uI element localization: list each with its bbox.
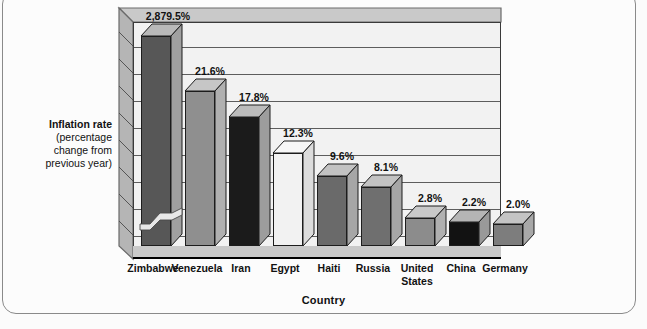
y-axis-title-line-1: Inflation rate — [10, 118, 112, 131]
bar-label-zimbabwe: 2,879.5% — [137, 10, 199, 22]
bar-front-russia — [361, 187, 391, 246]
bar-side-china — [479, 210, 492, 246]
bar-label-china: 2.2% — [451, 196, 497, 208]
y-axis-title-line-4: previous year) — [10, 157, 112, 170]
cat-label-united-states-line-2: States — [382, 275, 452, 288]
bar-side-russia — [391, 175, 404, 246]
bar-front-egypt — [273, 153, 303, 246]
bar-side-iran — [259, 105, 272, 246]
bar-label-egypt: 12.3% — [275, 127, 321, 139]
y-axis-title-line-3: change from — [10, 144, 112, 157]
bar-front-germany — [493, 224, 523, 246]
bar-label-haiti: 9.6% — [319, 150, 365, 162]
bar-side-united-states — [435, 206, 448, 246]
x-axis-title: Country — [0, 294, 647, 306]
bar-label-iran: 17.8% — [231, 91, 277, 103]
bar-front-venezuela — [185, 91, 215, 246]
bars-layer: 2,879.5% 21.6% — [133, 22, 501, 259]
bar-front-united-states — [405, 218, 435, 246]
cat-label-germany: Germany — [470, 262, 540, 275]
bar-label-russia: 8.1% — [363, 161, 409, 173]
bar-front-iran — [229, 117, 259, 246]
bar-front-china — [449, 222, 479, 246]
bar-side-venezuela — [215, 79, 228, 246]
bar-label-venezuela: 21.6% — [187, 65, 233, 77]
bar-side-germany — [523, 212, 536, 246]
bar-side-haiti — [347, 164, 360, 246]
bar-front-haiti — [317, 176, 347, 246]
bar-side-egypt — [303, 141, 316, 246]
bar-label-germany: 2.0% — [495, 198, 541, 210]
x-axis-tick-labels: Zimbabwe Venezuela Iran Egypt Haiti Russ… — [119, 262, 515, 296]
bar-label-united-states: 2.8% — [407, 192, 453, 204]
chart-3d-box: 2,879.5% 21.6% — [119, 8, 501, 260]
axis-break-icon — [140, 208, 184, 232]
cat-label-germany-line-1: Germany — [470, 262, 540, 275]
y-axis-title: Inflation rate (percentage change from p… — [10, 118, 112, 170]
y-axis-title-line-2: (percentage — [10, 131, 112, 144]
chart-page: Inflation rate (percentage change from p… — [0, 0, 647, 329]
